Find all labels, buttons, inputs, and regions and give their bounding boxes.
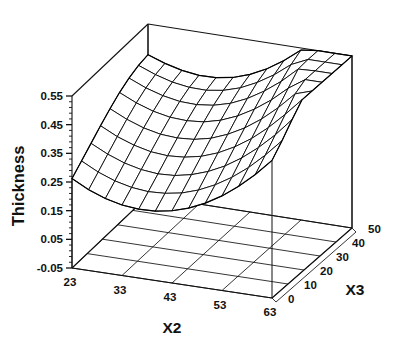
- z-tick-label: 0.55: [41, 90, 64, 102]
- x-tick-label: 63: [264, 306, 277, 318]
- y-tick-label: 30: [336, 251, 349, 263]
- y-tick-label: 10: [304, 279, 317, 291]
- y-tick-label: 20: [320, 265, 333, 277]
- x-tick-label: 53: [214, 299, 227, 311]
- x-tick-label: 33: [114, 284, 127, 296]
- x-tick-label: 23: [64, 276, 77, 288]
- z-axis-title: Thickness: [9, 146, 27, 227]
- z-tick-label: 0.35: [41, 147, 64, 159]
- z-tick-label: 0.45: [41, 119, 64, 131]
- z-tick-label: 0.15: [41, 205, 64, 217]
- surface-plot-figure: -0.050.050.150.250.350.450.55 2333435363…: [0, 0, 394, 344]
- x-axis-title: X2: [163, 319, 182, 336]
- y-tick-label: 0: [288, 293, 294, 305]
- y-tick-label: 40: [352, 237, 365, 249]
- z-tick-label: -0.05: [37, 262, 64, 274]
- y-axis-title: X3: [346, 281, 365, 298]
- z-tick-label: 0.05: [41, 233, 64, 245]
- y-tick-label: 50: [368, 223, 381, 235]
- x-tick-label: 43: [164, 291, 177, 303]
- z-tick-label: 0.25: [41, 176, 64, 188]
- surface-plot-canvas: -0.050.050.150.250.350.450.55 2333435363…: [0, 0, 394, 344]
